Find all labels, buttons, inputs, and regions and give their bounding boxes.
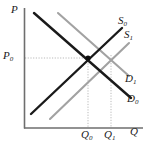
plot-canvas [0,0,146,144]
shifted-curves [50,13,129,119]
axes-lines [24,8,143,129]
supply-demand-figure: P Q P0 Q0 Q1 S0 S1 D1 D0 [0,0,146,144]
supply0-curve [31,28,122,114]
guide-lines [25,55,111,128]
supply1-curve [50,43,129,119]
equilibrium-point [85,55,90,60]
